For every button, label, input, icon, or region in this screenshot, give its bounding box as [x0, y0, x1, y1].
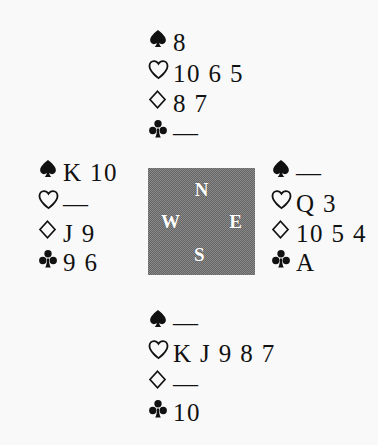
east-club-row: A — [270, 248, 367, 278]
north-heart-cards: 10 6 5 — [173, 61, 244, 86]
club-icon — [147, 398, 173, 420]
west-club-cards: 9 6 — [63, 250, 98, 275]
west-heart-row: — — [37, 188, 118, 218]
east-spade-row: — — [270, 158, 367, 188]
east-heart-row: Q 3 — [270, 188, 367, 218]
compass-label-north: N — [195, 180, 209, 199]
heart-icon — [270, 188, 296, 211]
diamond-icon — [147, 368, 173, 391]
south-diamond-cards: — — [173, 371, 198, 396]
compass-label-east: E — [229, 211, 242, 230]
west-diamond-row: J 9 — [37, 218, 118, 248]
south-club-row: 10 — [147, 398, 276, 428]
south-heart-cards: K J 9 8 7 — [173, 341, 276, 366]
diamond-icon — [270, 218, 296, 241]
hand-north: 8 10 6 5 8 7 — [147, 28, 244, 148]
spade-icon — [37, 158, 63, 180]
club-icon — [147, 118, 173, 140]
club-icon — [270, 248, 296, 270]
west-club-row: 9 6 — [37, 248, 118, 278]
spade-icon — [147, 308, 173, 330]
south-diamond-row: — — [147, 368, 276, 398]
diamond-icon — [37, 218, 63, 241]
west-spade-cards: K 10 — [63, 160, 118, 185]
east-spade-cards: — — [296, 160, 321, 185]
north-spade-row: 8 — [147, 28, 244, 58]
spade-icon — [147, 28, 173, 50]
spade-icon — [270, 158, 296, 180]
compass-box: N W E S — [148, 168, 255, 275]
west-spade-row: K 10 — [37, 158, 118, 188]
diamond-icon — [147, 88, 173, 111]
west-heart-cards: — — [63, 191, 88, 216]
east-heart-cards: Q 3 — [296, 191, 337, 216]
heart-icon — [147, 58, 173, 81]
hand-west: K 10 — J 9 — [37, 158, 118, 278]
bridge-hand-diagram: 8 10 6 5 8 7 — [0, 0, 378, 445]
west-diamond-cards: J 9 — [63, 221, 96, 246]
north-diamond-row: 8 7 — [147, 88, 244, 118]
compass-label-south: S — [194, 245, 205, 264]
club-icon — [37, 248, 63, 270]
south-spade-cards: — — [173, 310, 198, 335]
east-diamond-row: 10 5 4 — [270, 218, 367, 248]
heart-icon — [37, 188, 63, 211]
hand-east: — Q 3 10 5 4 — [270, 158, 367, 278]
south-club-cards: 10 — [173, 400, 201, 425]
north-club-row: — — [147, 118, 244, 148]
compass-label-west: W — [161, 211, 180, 230]
east-diamond-cards: 10 5 4 — [296, 221, 367, 246]
south-heart-row: K J 9 8 7 — [147, 338, 276, 368]
north-heart-row: 10 6 5 — [147, 58, 244, 88]
south-spade-row: — — [147, 308, 276, 338]
north-spade-cards: 8 — [173, 30, 187, 55]
north-diamond-cards: 8 7 — [173, 91, 208, 116]
heart-icon — [147, 338, 173, 361]
north-club-cards: — — [173, 120, 198, 145]
east-club-cards: A — [296, 250, 315, 275]
hand-south: — K J 9 8 7 — — [147, 308, 276, 428]
